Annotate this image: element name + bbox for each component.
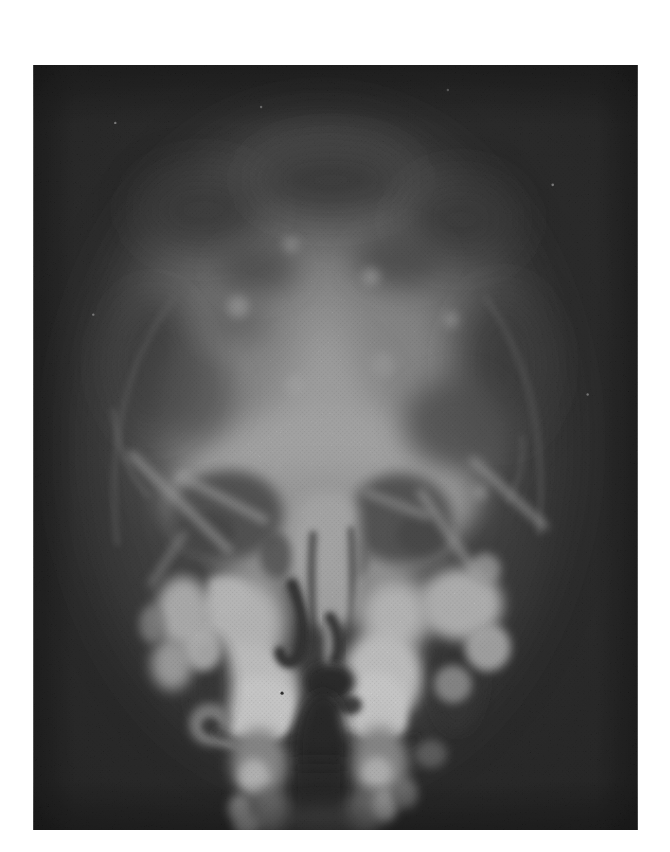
- skull-xray-radiograph: [33, 65, 638, 830]
- film-grain-light: [33, 65, 637, 830]
- page-background: [0, 0, 670, 852]
- skull-xray-canvas: [33, 65, 638, 830]
